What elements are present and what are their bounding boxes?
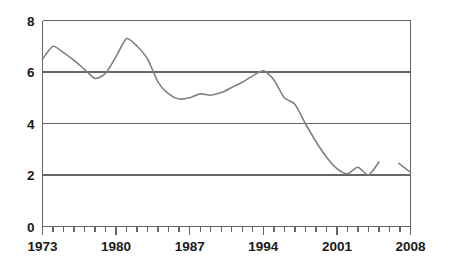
x-tick-labels-group: 197319801987199420012008	[27, 239, 426, 254]
gridlines-group	[43, 21, 411, 176]
x-tick-label-2008: 2008	[395, 239, 426, 254]
x-ticks-group	[43, 227, 411, 235]
y-tick-labels-group: 02468	[27, 14, 35, 235]
y-tick-label-8: 8	[27, 14, 35, 29]
y-tick-label-6: 6	[27, 65, 35, 80]
axes-group	[43, 21, 411, 235]
x-tick-label-2001: 2001	[322, 239, 353, 254]
x-tick-label-1987: 1987	[175, 239, 205, 254]
x-tick-label-1973: 1973	[27, 239, 58, 254]
y-tick-label-2: 2	[27, 168, 35, 183]
x-tick-label-1980: 1980	[101, 239, 131, 254]
x-tick-label-1994: 1994	[248, 239, 279, 254]
y-tick-label-4: 4	[27, 117, 35, 132]
data-line-main-series	[43, 38, 379, 175]
chart-canvas: 19731980198719942001200802468	[0, 0, 449, 263]
data-line-trailing-series	[399, 163, 411, 172]
y-tick-label-0: 0	[27, 220, 35, 235]
data-series-group	[43, 38, 411, 175]
line-chart: 19731980198719942001200802468	[0, 0, 449, 263]
